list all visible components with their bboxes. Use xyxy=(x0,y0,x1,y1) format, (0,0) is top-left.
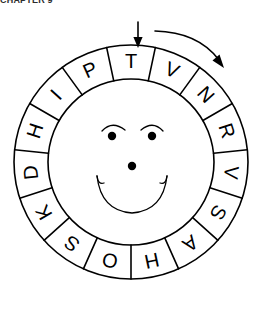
wheel-letter-v-4[interactable]: V xyxy=(220,165,243,181)
right-eyebrow-icon xyxy=(141,125,163,131)
wheel-letter-s-5[interactable]: S xyxy=(206,201,232,224)
wheel-letter-o-8[interactable]: O xyxy=(100,248,120,273)
wheel-segment-divider xyxy=(210,188,242,199)
left-eyebrow-icon xyxy=(102,125,125,131)
wheel-letter-h-12[interactable]: H xyxy=(22,121,47,142)
smiley-face-group xyxy=(97,125,167,213)
wheel-segment-divider xyxy=(148,48,155,81)
wheel-letter-r-3[interactable]: R xyxy=(214,121,239,142)
wheel-segment-divider xyxy=(107,48,114,81)
wheel-segment-divider xyxy=(20,188,52,199)
wheel-segment-divider xyxy=(214,150,248,154)
wheel-segment-divider xyxy=(83,238,97,269)
wheel-segment-divider xyxy=(62,67,82,95)
wheel-segment-divider xyxy=(165,238,179,269)
wheel-segment-divider xyxy=(193,218,218,241)
wheel-letter-p-14[interactable]: P xyxy=(79,57,100,83)
wheel-segment-divider xyxy=(203,104,232,121)
figure-page: CHAPTER 9 TVNRVSAHOSKDHIP xyxy=(0,0,265,309)
wheel-letter-d-11[interactable]: D xyxy=(19,164,42,181)
wheel-segment-divider xyxy=(180,67,200,95)
left-eye-icon xyxy=(108,132,116,140)
wheel-segment-divider xyxy=(44,218,69,241)
nose-icon xyxy=(128,162,136,170)
right-eye-icon xyxy=(148,132,156,140)
smile-arc xyxy=(97,176,167,213)
wheel-segment-divider xyxy=(15,150,49,154)
wheel-segment-divider xyxy=(30,104,59,121)
pointer-head xyxy=(133,37,142,48)
rotation-arrow-arc xyxy=(155,31,219,60)
wheel-letter-n-2[interactable]: N xyxy=(193,82,219,107)
wheel-segment-letters: TVNRVSAHOSKDHIP xyxy=(19,50,243,273)
wheel-letter-i-13[interactable]: I xyxy=(46,85,66,104)
wheel-letter-t-0[interactable]: T xyxy=(125,50,137,72)
wheel-letter-a-6[interactable]: A xyxy=(178,231,202,257)
wheel-letter-v-1[interactable]: V xyxy=(162,57,184,83)
letter-wheel-figure: TVNRVSAHOSKDHIP xyxy=(0,0,265,309)
rotation-arrow-head xyxy=(213,55,225,69)
wheel-letter-k-10[interactable]: K xyxy=(30,201,56,224)
wheel-letter-h-7[interactable]: H xyxy=(143,249,162,274)
down-arrow-pointer-group xyxy=(133,22,142,48)
wheel-letter-s-9[interactable]: S xyxy=(60,231,84,257)
